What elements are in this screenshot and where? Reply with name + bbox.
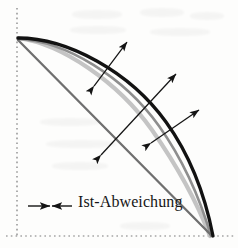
deviation-diagram: Ist-Abweichung xyxy=(0,0,238,248)
legend-label: Ist-Abweichung xyxy=(78,193,183,211)
